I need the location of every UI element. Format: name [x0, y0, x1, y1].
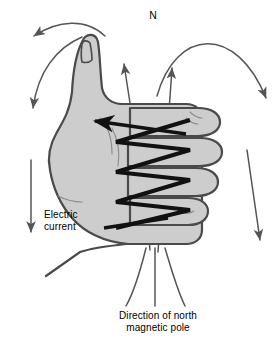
- pole-line-right: [165, 248, 185, 306]
- right-hand: [46, 35, 222, 276]
- field-line-right-arc: [157, 44, 266, 98]
- north-pole-direction-label: Direction of north magnetic pole: [78, 310, 238, 333]
- finger-ring: [128, 168, 218, 196]
- electric-current-label: Electric current: [44, 209, 106, 232]
- field-line-right-outer: [247, 150, 260, 240]
- finger-middle: [128, 138, 222, 166]
- pole-line-left: [126, 248, 146, 306]
- north-pole-indicator-lines: [126, 248, 185, 306]
- right-hand-rule-illustration: [0, 0, 276, 344]
- wrist-lines: [46, 244, 126, 276]
- wrist-lower-edge: [46, 244, 126, 276]
- thumbnail: [81, 41, 92, 63]
- diagram-canvas: N Electric current Direction of north ma…: [0, 0, 276, 344]
- field-line-top-left-outer: [34, 23, 105, 36]
- north-marker-label: N: [138, 10, 168, 22]
